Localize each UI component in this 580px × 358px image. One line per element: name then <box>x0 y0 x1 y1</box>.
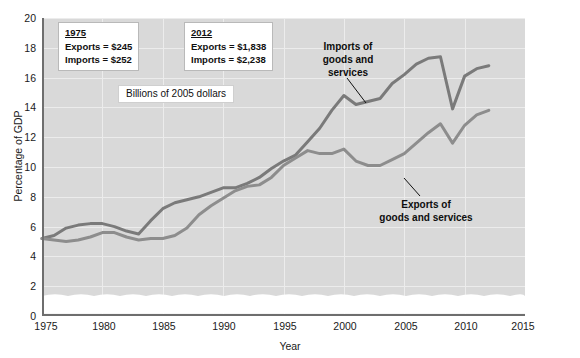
chart-figure: 0 2 4 6 8 10 12 14 16 18 20 1975 1980 19… <box>0 0 580 358</box>
series-label-exports-line1: Exports of <box>353 198 499 211</box>
series-label-exports: Exports of goods and services <box>353 198 499 224</box>
callout-1975: 1975 Exports = $245 Imports = $252 <box>58 22 139 71</box>
series-label-exports-line2: goods and services <box>353 211 499 224</box>
units-note: Billions of 2005 dollars <box>118 85 234 103</box>
x-tick-1975: 1975 <box>34 320 57 332</box>
x-tick-2005: 2005 <box>394 320 417 332</box>
x-tick-2010: 2010 <box>454 320 477 332</box>
callout-1975-imports: Imports = $252 <box>65 53 132 66</box>
callout-2012-imports: Imports = $2,238 <box>191 53 266 66</box>
y-axis-title: Percentage of GDP <box>12 86 24 226</box>
x-tick-1980: 1980 <box>92 320 115 332</box>
x-tick-2015: 2015 <box>511 320 534 332</box>
callout-1975-exports: Exports = $245 <box>65 40 132 53</box>
x-tick-1995: 1995 <box>273 320 296 332</box>
series-label-imports: Imports of goods and services <box>296 40 400 79</box>
x-tick-2000: 2000 <box>333 320 356 332</box>
series-label-imports-line3: services <box>296 66 400 79</box>
callout-1975-header: 1975 <box>65 26 132 39</box>
x-axis-title: Year <box>0 340 580 352</box>
x-tick-1990: 1990 <box>212 320 235 332</box>
series-label-imports-line1: Imports of <box>296 40 400 53</box>
callout-2012-exports: Exports = $1,838 <box>191 40 266 53</box>
x-tick-1985: 1985 <box>152 320 175 332</box>
callout-2012: 2012 Exports = $1,838 Imports = $2,238 <box>184 22 273 71</box>
series-label-imports-line2: goods and <box>296 53 400 66</box>
callout-2012-header: 2012 <box>191 26 266 39</box>
